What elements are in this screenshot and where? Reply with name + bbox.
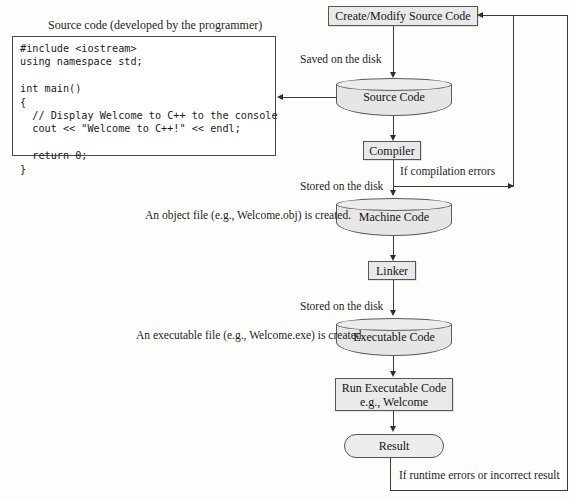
edge-linker-to-executable [393,280,394,312]
arrowhead-create-to-source [390,72,396,78]
edge-label-runtime-errors: If runtime errors or incorrect result [399,469,560,482]
node-linker-label: Linker [376,264,408,278]
arrowhead-source-to-codebox [277,94,283,100]
node-compiler[interactable]: Compiler [363,141,421,160]
arrowhead-executable-to-run [390,371,396,377]
node-run-executable-code[interactable]: Run Executable Code e.g., Welcome [335,378,453,411]
node-result[interactable]: Result [344,434,444,458]
node-machine-code-store[interactable]: Machine Code [336,198,452,236]
edge-label-stored-on-disk-1: Stored on the disk [300,180,383,193]
node-source-code-store[interactable]: Source Code [336,78,452,116]
arrowhead-run-to-result [390,426,396,432]
node-create-modify-source-code-label: Create/Modify Source Code [335,9,470,23]
arrowhead-source-to-compiler [390,135,396,141]
cylinder-top [336,198,452,211]
node-compiler-label: Compiler [369,144,414,158]
source-code-caption: Source code (developed by the programmer… [48,19,262,32]
arrowhead-linker-to-executable [390,310,396,316]
edge-label-executable-file-note: An executable file (e.g., Welcome.exe) i… [136,329,364,342]
edge-source-to-codebox [281,97,337,98]
node-linker[interactable]: Linker [368,261,416,280]
edge-runtime-outer-riser [567,15,568,491]
diagram-canvas: Source code (developed by the programmer… [0,0,574,499]
node-create-modify-source-code[interactable]: Create/Modify Source Code [328,6,478,26]
node-executable-code-store-label: Executable Code [336,330,452,345]
node-executable-code-store[interactable]: Executable Code [336,318,452,356]
arrowhead-machine-to-linker [390,255,396,261]
arrowhead-feedback-into-create [477,12,483,18]
source-code-text: #include <iostream> using namespace std;… [20,42,268,176]
edge-create-to-source [393,26,394,75]
edge-feedback-top-horizontal [482,15,568,16]
edge-label-compilation-errors: If compilation errors [400,165,495,178]
node-source-code-store-label: Source Code [336,90,452,105]
edge-machine-to-linker [393,236,394,255]
edge-label-saved-on-disk: Saved on the disk [300,53,381,66]
cylinder-top [336,78,452,91]
edge-result-down [390,458,391,490]
edge-compilation-errors-riser [513,15,514,187]
edge-compilation-errors-horizontal [393,186,514,187]
edge-label-object-file-note: An object file (e.g., Welcome.obj) is cr… [145,209,351,222]
arrowhead-compiler-to-machine [390,190,396,196]
node-machine-code-store-label: Machine Code [336,210,452,225]
edge-runtime-bottom-horizontal [390,490,568,491]
edge-executable-to-run [393,356,394,372]
node-result-label: Result [379,439,410,454]
node-run-executable-code-label: Run Executable Code e.g., Welcome [342,381,447,409]
source-code-box: #include <iostream> using namespace std;… [12,36,276,156]
edge-label-stored-on-disk-2: Stored on the disk [300,300,383,313]
